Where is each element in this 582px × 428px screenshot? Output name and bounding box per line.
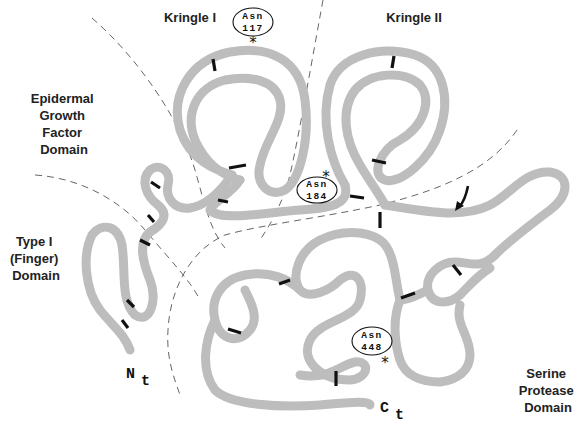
label-protease: Serine Protease Domain — [519, 366, 578, 415]
glycosylation-site-117: Asn 117 * — [233, 8, 273, 52]
cleavage-arrow-icon — [455, 186, 468, 211]
svg-text:t: t — [141, 373, 150, 390]
label-kringle2: Kringle II — [386, 10, 442, 25]
svg-text:Asn: Asn — [361, 330, 383, 341]
chain-finger — [86, 227, 153, 350]
svg-text:Asn: Asn — [306, 179, 328, 190]
polypeptide-chain — [86, 50, 565, 406]
disulfide-bond — [350, 196, 364, 198]
svg-text:448: 448 — [361, 342, 383, 353]
disulfide-bond — [151, 182, 160, 188]
n-terminus-label: N t — [126, 366, 150, 390]
svg-text:117: 117 — [242, 23, 264, 34]
disulfide-bond — [392, 56, 394, 68]
c-terminus-label: C t — [380, 400, 404, 424]
disulfide-bond — [213, 59, 215, 71]
svg-text:C: C — [380, 400, 389, 417]
disulfide-bond — [228, 329, 241, 333]
chain-kringle2 — [326, 51, 445, 205]
asterisk-icon: * — [249, 34, 257, 52]
boundary-kringle1-kringle2 — [260, 0, 323, 240]
svg-text:Asn: Asn — [242, 11, 264, 22]
disulfide-bond — [218, 200, 228, 202]
label-egf: Epidermal Growth Factor Domain — [31, 91, 97, 157]
asterisk-icon: * — [381, 354, 389, 372]
chain-protease — [206, 233, 495, 407]
disulfide-bond — [122, 320, 128, 328]
chain-activation-loop — [385, 172, 565, 255]
disulfide-bond — [148, 215, 154, 222]
chain-kringle1 — [177, 50, 306, 192]
boundary-egf-kringle1 — [92, 18, 225, 248]
svg-text:184: 184 — [306, 191, 328, 202]
protein-domain-diagram: Kringle I Kringle II Epidermal Growth Fa… — [0, 0, 582, 428]
label-kringle1: Kringle I — [164, 10, 216, 25]
glycosylation-site-184: * Asn 184 — [297, 168, 337, 203]
disulfide-bonds — [122, 56, 461, 386]
svg-text:N: N — [126, 366, 135, 383]
disulfide-bond — [229, 165, 246, 168]
label-finger: Type I (Finger) Domain — [10, 234, 62, 283]
svg-text:t: t — [395, 407, 404, 424]
